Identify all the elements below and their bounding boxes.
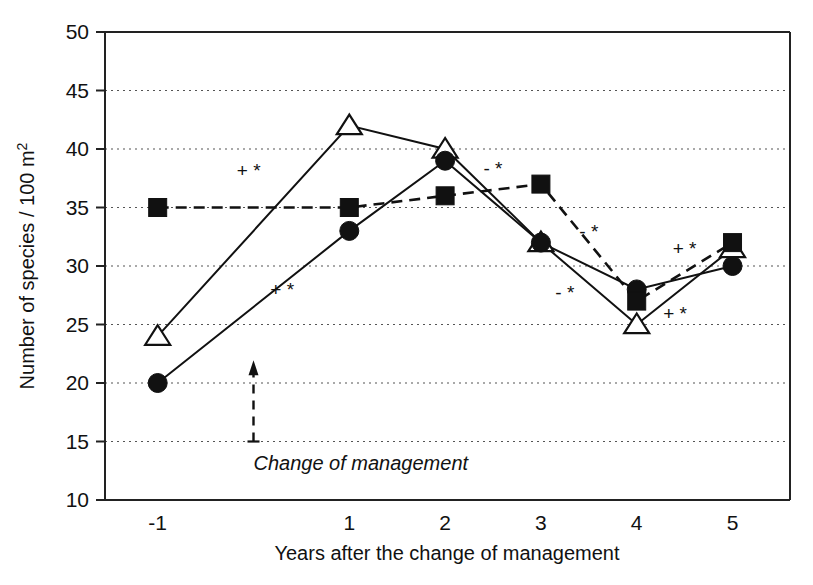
y-axis-tick-label: 25: [66, 313, 89, 336]
y-axis-title-superscript: 2: [14, 142, 30, 150]
marker-filled-circle: [148, 374, 167, 393]
chart-figure: 101520253035404550 -112345 Change of man…: [0, 0, 813, 585]
sig-mark-1: + *: [237, 160, 261, 181]
y-axis-title: Number of species / 100 m2: [14, 142, 38, 389]
y-axis-tick-label: 50: [66, 20, 89, 43]
x-axis-tick-label: 1: [343, 511, 355, 534]
sig-mark-4: - *: [579, 221, 599, 242]
marker-filled-circle: [436, 151, 455, 170]
sig-mark-6: + *: [673, 238, 697, 259]
y-axis-tick-label: 35: [66, 196, 89, 219]
marker-filled-square: [724, 234, 742, 252]
y-axis-tick-label: 20: [66, 371, 89, 394]
chart-canvas: 101520253035404550 -112345 Change of man…: [0, 0, 813, 585]
x-axis-tick-label: 5: [727, 511, 739, 534]
x-axis-tick-label: 2: [439, 511, 451, 534]
x-axis-title: Years after the change of management: [274, 542, 619, 564]
svg-text:Number of species / 100 m2: Number of species / 100 m2: [14, 142, 38, 389]
marker-filled-circle: [340, 221, 359, 240]
x-axis-tick-label: 3: [535, 511, 547, 534]
marker-filled-square: [340, 199, 358, 217]
sig-mark-3: - *: [484, 158, 504, 179]
marker-filled-square: [532, 175, 550, 193]
marker-filled-square: [628, 292, 646, 310]
change-of-management-label: Change of management: [253, 452, 469, 474]
y-axis-tick-label: 45: [66, 79, 89, 102]
sig-mark-7: + *: [663, 303, 687, 324]
x-axis-tick-label: -1: [148, 511, 167, 534]
marker-filled-square: [436, 187, 454, 205]
y-axis-tick-label: 15: [66, 430, 89, 453]
marker-filled-circle: [723, 257, 742, 276]
sig-mark-2: + *: [270, 279, 294, 300]
y-axis-tick-label: 40: [66, 137, 89, 160]
y-axis-tick-label: 10: [66, 488, 89, 511]
sig-mark-5: - *: [555, 282, 575, 303]
marker-filled-circle: [531, 233, 550, 252]
y-axis-tick-label: 30: [66, 254, 89, 277]
y-axis-title-main: Number of species / 100 m: [16, 150, 38, 389]
marker-filled-square: [149, 199, 167, 217]
x-axis-tick-label: 4: [631, 511, 643, 534]
chart-background: [0, 0, 813, 585]
y-axis-tick-labels: 101520253035404550: [66, 20, 89, 511]
